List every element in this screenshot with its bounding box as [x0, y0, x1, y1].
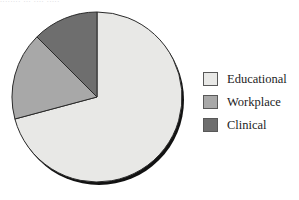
legend-label-clinical: Clinical [227, 118, 267, 132]
chart-legend: Educational Workplace Clinical [203, 67, 295, 136]
legend-item-clinical: Clinical [203, 113, 295, 136]
legend-swatch-clinical [203, 118, 218, 132]
legend-swatch-educational [203, 72, 218, 86]
legend-label-workplace: Workplace [227, 95, 281, 109]
cropped-text-line: ........ ... .... ..... [0, 0, 299, 4]
pie-chart-figure: ........ ... .... ..... Educational Work… [0, 0, 299, 200]
pie-slice-group [12, 12, 182, 182]
pie-chart-plot-area [8, 10, 186, 188]
legend-label-educational: Educational [227, 72, 287, 86]
legend-item-educational: Educational [203, 67, 295, 90]
pie-chart-svg [8, 10, 186, 188]
cropped-text-bleed: ........ ... .... ..... [0, 0, 299, 5]
legend-item-workplace: Workplace [203, 90, 295, 113]
legend-swatch-workplace [203, 95, 218, 109]
